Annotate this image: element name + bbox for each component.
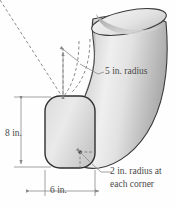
duct-elbow-figure: 5 in. radius 8 in. 6 in. 2 in. radius at… bbox=[0, 0, 175, 209]
dashed-bend-curve bbox=[72, 39, 90, 92]
duct-front-face bbox=[45, 96, 95, 168]
elbow-duct-drawing bbox=[0, 0, 175, 209]
dashed-helper bbox=[0, 0, 63, 98]
bend-radius-leader-upper bbox=[64, 50, 79, 62]
corner-radius-label-line1: 2 in. radius at bbox=[110, 166, 162, 177]
corner-radius-label-line2: each corner bbox=[110, 179, 154, 190]
dashed-bend-curve-2 bbox=[64, 41, 79, 96]
height-label: 8 in. bbox=[5, 128, 22, 139]
width-label: 6 in. bbox=[50, 185, 67, 196]
bend-radius-construction bbox=[0, 0, 90, 98]
bend-radius-label: 5 in. radius bbox=[105, 66, 147, 77]
front-face-rounded-rect bbox=[45, 96, 95, 168]
